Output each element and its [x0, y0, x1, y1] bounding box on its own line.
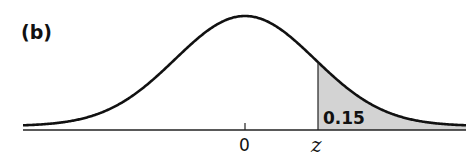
panel-label: (b) — [21, 21, 52, 43]
normal-curve-figure: (b) 0 z 0.15 — [0, 0, 466, 164]
tick-label-zero: 0 — [239, 135, 250, 155]
shaded-area-label: 0.15 — [323, 108, 365, 128]
density-curve — [23, 16, 466, 125]
tick-label-z: z — [310, 133, 322, 157]
